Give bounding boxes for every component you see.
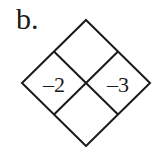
diamond-left-cell: –2 — [34, 74, 74, 96]
diamond-right-cell: –3 — [98, 74, 138, 96]
